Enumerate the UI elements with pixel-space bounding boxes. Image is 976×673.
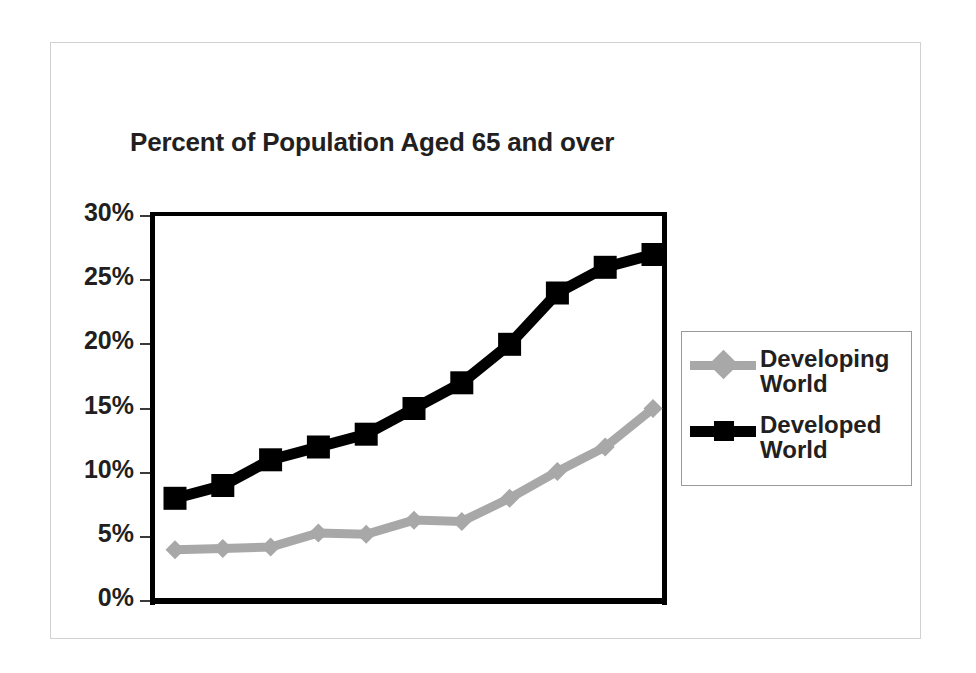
legend-swatch-developing bbox=[690, 350, 756, 380]
x-axis-line bbox=[150, 598, 667, 604]
diamond-icon bbox=[709, 350, 739, 380]
legend-label-developed-world: Developed World bbox=[760, 412, 910, 463]
chart-legend: Developing World Developed World bbox=[681, 331, 912, 486]
plot-area bbox=[150, 214, 666, 603]
y-axis-tick-label: 5% bbox=[44, 519, 134, 548]
legend-label-developing-world: Developing World bbox=[760, 346, 910, 397]
y-axis-tick-label: 15% bbox=[44, 391, 134, 420]
y-axis-tick-label: 25% bbox=[44, 262, 134, 291]
y-axis-tick-label: 30% bbox=[44, 198, 134, 227]
y-axis-tick-label: 0% bbox=[44, 583, 134, 612]
slide-canvas: Percent of Population Aged 65 and over 3… bbox=[0, 0, 976, 673]
square-icon bbox=[714, 421, 734, 441]
legend-item-developed-world: Developed World bbox=[682, 412, 911, 463]
legend-swatch-developed bbox=[690, 416, 756, 446]
y-axis-line bbox=[150, 212, 155, 605]
y-axis-tick-label: 20% bbox=[44, 326, 134, 355]
y-axis-labels: 30%25%20%15%10%5%0% bbox=[38, 0, 134, 673]
y-axis-tick-label: 10% bbox=[44, 455, 134, 484]
axis-right-border bbox=[662, 212, 667, 605]
legend-item-developing-world: Developing World bbox=[682, 346, 911, 397]
axis-top-border bbox=[150, 212, 667, 216]
page-title: Percent of Population Aged 65 and over bbox=[130, 127, 690, 158]
